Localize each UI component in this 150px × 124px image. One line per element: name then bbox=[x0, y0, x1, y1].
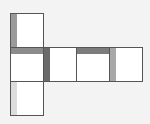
face-shade bbox=[11, 82, 17, 115]
face-middle-3 bbox=[76, 47, 110, 82]
face-shade bbox=[44, 48, 50, 81]
face-middle-1 bbox=[10, 47, 44, 82]
face-middle-4 bbox=[109, 47, 143, 82]
face-top bbox=[10, 13, 44, 48]
face-middle-2 bbox=[43, 47, 77, 82]
face-shade bbox=[11, 48, 43, 54]
face-shade bbox=[77, 48, 109, 54]
cube-net-diagram bbox=[0, 0, 150, 124]
face-shade bbox=[110, 48, 116, 81]
face-bottom bbox=[10, 81, 44, 116]
face-shade bbox=[11, 14, 17, 47]
